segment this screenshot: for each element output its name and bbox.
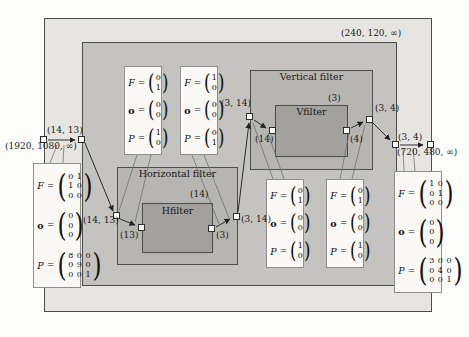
edge-label-hfilter-out: (3) xyxy=(216,231,229,241)
port-hfilter-out xyxy=(208,225,215,232)
matrix-values: 0 0 xyxy=(147,100,169,120)
matrix-values: 0 1 1 0 0 0 xyxy=(56,172,94,201)
matrix-F: F = 0 1 xyxy=(329,186,371,206)
matrix-P: P = 1 0 xyxy=(269,241,311,261)
symbol-P: P xyxy=(397,265,406,276)
symbol-o: o xyxy=(183,105,192,116)
equals: = xyxy=(340,218,347,228)
matrix-values: 1 0 xyxy=(349,241,371,261)
symbol-P: P xyxy=(183,133,192,144)
edge-label-sink-rate: (720, 480, ∞) xyxy=(397,148,457,158)
port-vfilter-in xyxy=(269,127,276,134)
equals: = xyxy=(280,191,287,201)
equals: = xyxy=(194,105,201,115)
edge-label-hfilter-in: (13) xyxy=(120,231,138,241)
annotation-box-hfilter-out: F = 1 0 o = 0 0 P = 0 1 xyxy=(180,66,218,155)
symbol-F: F xyxy=(329,190,338,201)
equals: = xyxy=(138,78,145,88)
matrix-values: 0 1 xyxy=(349,186,371,206)
equals: = xyxy=(47,260,54,270)
matrix-F: F = 0 1 1 0 0 0 xyxy=(36,172,94,201)
symbol-o: o xyxy=(127,105,136,116)
matrix-values: 1 0 xyxy=(147,128,169,148)
equals: = xyxy=(340,191,347,201)
matrix-P: P = 1 0 xyxy=(329,241,371,261)
edge-label-vf-out: (3, 4) xyxy=(375,104,399,114)
equals: = xyxy=(280,246,287,256)
edge-label-hf-out: (3, 14) xyxy=(241,215,271,225)
port-inner-input xyxy=(78,136,85,143)
matrix-P: P = 0 1 xyxy=(183,128,225,148)
matrix-values: 1 0 xyxy=(289,241,311,261)
annotation-box-vfilter-out: F = 0 1 o = 0 0 P = 1 0 xyxy=(326,179,364,268)
port-horizontal-filter-out xyxy=(233,213,240,220)
annotation-box-output-edge: F = 1 0 0 1 0 0 o = 0 0 0 P = 3 0 0 0 4 … xyxy=(394,171,442,293)
equals: = xyxy=(280,218,287,228)
symbol-F: F xyxy=(127,77,136,88)
edge-label-vfilter-window: (3) xyxy=(328,94,341,104)
matrix-F: F = 1 0 0 1 0 0 xyxy=(397,179,455,208)
symbol-F: F xyxy=(36,180,45,191)
matrix-P: P = 8 0 0 0 9 0 0 0 1 xyxy=(36,251,103,280)
edge-label-vfilter-in: (14) xyxy=(255,135,273,145)
matrix-values: 1 0 0 1 0 0 xyxy=(417,179,455,208)
edge-label-source-rate: (1920, 1080, ∞) xyxy=(5,142,77,152)
equals: = xyxy=(138,133,145,143)
annotation-box-hfilter-in: F = 0 1 o = 0 0 P = 1 0 xyxy=(124,66,162,155)
matrix-o: o = 0 0 0 xyxy=(397,218,446,247)
actor-label-vfilter: Vfilter xyxy=(275,107,348,117)
equals: = xyxy=(138,105,145,115)
matrix-F: F = 0 1 xyxy=(127,73,169,93)
annotation-box-vfilter-in: F = 0 1 o = 0 0 P = 1 0 xyxy=(266,179,304,268)
actor-label-horizontal-filter: Horizontal filter xyxy=(117,169,238,179)
port-vertical-filter-in xyxy=(246,113,253,120)
symbol-P: P xyxy=(329,246,338,257)
edge-label-top-rate: (240, 120, ∞) xyxy=(341,29,401,39)
equals: = xyxy=(340,246,347,256)
matrix-F: F = 1 0 xyxy=(183,73,225,93)
symbol-o: o xyxy=(36,220,45,231)
matrix-values: 0 1 xyxy=(147,73,169,93)
port-hfilter-in xyxy=(138,224,145,231)
symbol-o: o xyxy=(329,218,338,229)
matrix-o: o = 0 0 xyxy=(269,213,311,233)
equals: = xyxy=(408,188,415,198)
matrix-F: F = 0 1 xyxy=(269,186,311,206)
edge-label-vfilter-out: (4) xyxy=(350,135,363,145)
matrix-o: o = 0 0 xyxy=(183,100,225,120)
symbol-F: F xyxy=(269,190,278,201)
symbol-o: o xyxy=(397,226,406,237)
symbol-P: P xyxy=(36,260,45,271)
port-vertical-filter-out xyxy=(366,116,373,123)
port-vfilter-out xyxy=(343,127,350,134)
figure-canvas: F = 0 1 1 0 0 0 o = 0 0 0 P = 8 0 0 0 9 … xyxy=(0,0,469,337)
matrix-values: 3 0 0 0 4 0 0 0 1 xyxy=(417,256,464,285)
edge-label-inner-out: (3, 4) xyxy=(398,133,422,143)
matrix-values: 0 0 0 xyxy=(417,218,446,247)
matrix-P: P = 1 0 xyxy=(127,128,169,148)
equals: = xyxy=(408,227,415,237)
matrix-o: o = 0 0 xyxy=(127,100,169,120)
annotation-box-input-edge: F = 0 1 1 0 0 0 o = 0 0 0 P = 8 0 0 0 9 … xyxy=(33,163,81,288)
matrix-values: 0 1 xyxy=(203,128,225,148)
edge-label-source-tokens: (14, 13) xyxy=(47,126,83,136)
matrix-values: 1 0 xyxy=(203,73,225,93)
equals: = xyxy=(47,220,54,230)
symbol-F: F xyxy=(183,77,192,88)
matrix-P: P = 3 0 0 0 4 0 0 0 1 xyxy=(397,256,464,285)
equals: = xyxy=(194,78,201,88)
edge-label-hfilter-window: (14) xyxy=(190,190,208,200)
matrix-values: 0 0 xyxy=(349,213,371,233)
actor-label-vertical-filter: Vertical filter xyxy=(250,72,373,82)
matrix-values: 0 0 0 xyxy=(56,211,85,240)
edge-label-vf-in: (3, 14) xyxy=(221,99,251,109)
actor-label-hfilter: Hfilter xyxy=(142,206,213,216)
matrix-values: 8 0 0 0 9 0 0 0 1 xyxy=(56,251,103,280)
symbol-P: P xyxy=(127,133,136,144)
matrix-values: 0 0 xyxy=(289,213,311,233)
equals: = xyxy=(408,266,415,276)
symbol-P: P xyxy=(269,246,278,257)
edge-label-hf-in: (14, 13) xyxy=(83,216,119,226)
equals: = xyxy=(47,181,54,191)
matrix-o: o = 0 0 0 xyxy=(36,211,85,240)
